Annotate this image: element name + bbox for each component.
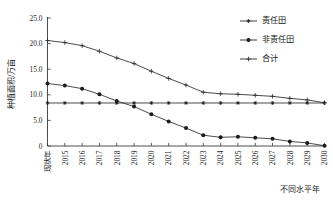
chart-canvas: 25.020.015.010.05.00 现状年2015201620172018… [0,0,333,200]
x-axis-tick-label: 2017 [95,150,104,165]
legend-item-责任田[interactable]: 责任田 [240,15,286,25]
x-axis-tick-label: 2022 [182,150,191,165]
x-axis-tick-label: 2016 [78,150,87,165]
x-axis-tick-label: 2018 [113,150,122,165]
series-非责任田 [46,82,327,148]
y-axis-tick-label: 10.0 [30,90,43,99]
y-axis-tick-label: 5.0 [33,116,43,125]
y-axis-title: 种植面积/万亩 [6,59,16,109]
x-axis-tick-label: 2030 [320,150,329,165]
x-axis-tick-label: 2021 [164,150,173,165]
x-axis-tick-label: 2026 [251,150,260,165]
series-合计 [45,38,327,105]
x-axis-tick-label: 2024 [216,150,225,165]
x-axis-title: 不同水平年 [280,184,320,194]
y-axis-tick-label: 20.0 [30,39,43,48]
line-chart: 25.020.015.010.05.00 现状年2015201620172018… [0,0,333,200]
series-group [45,38,327,148]
x-axis-tick-group: 现状年2015201620172018201920202021202220232… [43,143,329,172]
x-axis-tick-label: 2025 [234,150,243,165]
y-axis-tick-label: 15.0 [30,65,43,74]
legend-label: 合计 [262,53,278,63]
y-axis-tick-label: 0 [39,142,43,151]
x-axis-tick-label: 2015 [61,150,70,165]
x-axis-tick-label: 2023 [199,150,208,165]
x-axis-tick-label: 2029 [303,150,312,165]
y-axis-tick-label: 25.0 [30,14,43,23]
x-axis-tick-label: 2020 [147,150,156,165]
x-axis-tick-label: 现状年 [43,150,52,172]
legend-label: 责任田 [262,15,286,25]
legend-item-合计[interactable]: 合计 [240,53,278,63]
legend-label: 非责任田 [262,34,294,44]
x-axis-tick-label: 2019 [130,150,139,165]
x-axis-tick-label: 2027 [268,150,277,165]
series-责任田 [46,101,327,105]
chart-legend: 责任田非责任田合计 [240,15,294,63]
x-axis-tick-label: 2028 [286,150,295,165]
legend-item-非责任田[interactable]: 非责任田 [240,34,294,44]
